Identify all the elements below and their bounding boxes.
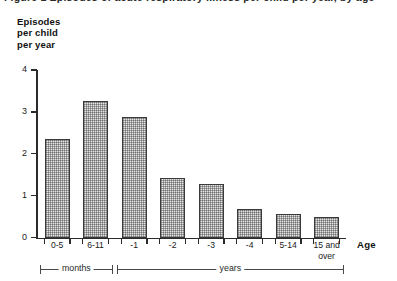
y-tick-label: 0: [5, 232, 27, 242]
y-tick-label: 1: [5, 190, 27, 200]
clipped-caption-strip: Figure 1 Episodes of acute respiratory i…: [0, 0, 397, 7]
y-tick-mark: [31, 69, 37, 70]
bar: [237, 209, 262, 238]
bar: [276, 214, 301, 238]
y-axis-title: Episodes per child per year: [17, 16, 60, 50]
bracket-cap-left: [40, 265, 41, 274]
bar: [83, 101, 108, 238]
bar-chart-figure: Figure 1 Episodes of acute respiratory i…: [0, 0, 397, 281]
y-tick-label: 4: [5, 64, 27, 74]
y-tick-mark: [31, 153, 37, 154]
y-tick-mark: [31, 111, 37, 112]
bar: [199, 184, 224, 238]
bracket-cap-right: [112, 265, 113, 274]
x-category-label: -2: [152, 240, 194, 251]
clipped-caption-text: Figure 1 Episodes of acute respiratory i…: [4, 0, 375, 3]
bar: [122, 117, 147, 238]
y-axis-line: [36, 70, 38, 239]
x-axis-title: Age: [357, 239, 376, 250]
bracket-cap-left: [117, 265, 118, 274]
bar: [314, 217, 339, 237]
y-tick-label: 3: [5, 106, 27, 116]
x-category-label: 6-11: [75, 240, 117, 251]
y-tick-mark: [31, 195, 37, 196]
x-category-label: -4: [229, 240, 271, 251]
bracket-label: years: [217, 263, 245, 273]
bracket-cap-right: [343, 265, 344, 274]
bar: [160, 178, 185, 238]
bar: [45, 139, 70, 238]
x-category-label: 5-14: [267, 240, 309, 251]
y-tick-mark: [31, 237, 37, 238]
x-category-label: 15 and over: [306, 240, 348, 261]
x-category-label: -3: [190, 240, 232, 251]
x-category-label: -1: [113, 240, 155, 251]
group-bracket-years: years: [117, 264, 345, 275]
x-category-label: 0-5: [36, 240, 78, 251]
y-tick-label: 2: [5, 148, 27, 158]
bracket-label: months: [59, 263, 94, 273]
group-bracket-months: months: [40, 264, 114, 275]
